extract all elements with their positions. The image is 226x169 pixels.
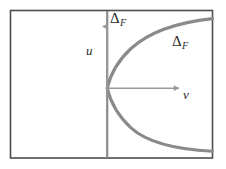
figure-container: ΔF ΔF u v (0, 0, 226, 169)
delta-symbol-top: Δ (110, 10, 120, 26)
delta-f-label-top: ΔF (110, 11, 126, 28)
delta-subscript-top: F (120, 17, 127, 28)
v-axis-label: v (183, 88, 189, 101)
delta-f-label-curve: ΔF (172, 34, 188, 51)
delta-subscript-curve: F (182, 40, 189, 51)
plot-frame (11, 11, 213, 159)
u-axis-label: u (86, 44, 93, 57)
delta-symbol-curve: Δ (172, 33, 182, 49)
